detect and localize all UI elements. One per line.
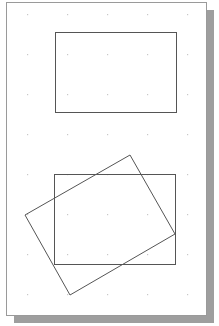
grid-dot bbox=[27, 54, 28, 55]
grid-dot bbox=[27, 94, 28, 95]
grid-dot bbox=[187, 54, 188, 55]
grid-dot bbox=[67, 294, 68, 295]
grid-dot bbox=[107, 214, 108, 215]
grid-dot bbox=[27, 254, 28, 255]
grid-dot bbox=[107, 14, 108, 15]
grid-dot bbox=[107, 54, 108, 55]
grid-dot bbox=[187, 174, 188, 175]
grid-dot bbox=[67, 214, 68, 215]
grid-dot bbox=[107, 134, 108, 135]
grid-dot bbox=[187, 14, 188, 15]
grid-dot bbox=[147, 134, 148, 135]
grid-dot bbox=[27, 174, 28, 175]
grid-dot bbox=[67, 134, 68, 135]
grid-dot bbox=[187, 254, 188, 255]
grid-dot bbox=[67, 94, 68, 95]
grid-dot bbox=[187, 294, 188, 295]
grid-dot bbox=[67, 54, 68, 55]
grid-dot bbox=[187, 134, 188, 135]
grid-dot bbox=[187, 94, 188, 95]
grid-dot bbox=[187, 214, 188, 215]
grid-dot bbox=[67, 14, 68, 15]
grid-dot bbox=[67, 254, 68, 255]
grid-dot bbox=[147, 94, 148, 95]
grid-dot bbox=[147, 214, 148, 215]
grid-dot bbox=[27, 14, 28, 15]
grid-dot bbox=[107, 294, 108, 295]
grid-dot bbox=[107, 254, 108, 255]
grid-dot bbox=[107, 94, 108, 95]
grid-dot bbox=[147, 14, 148, 15]
grid-dot bbox=[27, 134, 28, 135]
grid-dot bbox=[27, 294, 28, 295]
grid-dot bbox=[147, 54, 148, 55]
grid-dot bbox=[147, 294, 148, 295]
grid-dot bbox=[147, 254, 148, 255]
drawing-canvas bbox=[0, 0, 219, 326]
